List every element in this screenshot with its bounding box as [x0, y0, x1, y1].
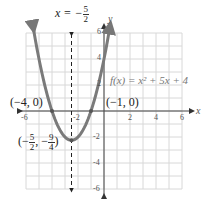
- y-tick-label: 2: [97, 80, 101, 88]
- y-tick-label: 6: [97, 28, 101, 36]
- y-tick-label: -2: [93, 133, 100, 141]
- x-tick-label: 4: [154, 114, 158, 122]
- point-label-vertex: (−52, −94): [18, 133, 59, 152]
- function-label: f(x) = x² + 5x + 4: [110, 75, 188, 86]
- x-tick-label: -2: [73, 114, 80, 122]
- x-tick-label: -6: [21, 114, 28, 122]
- x-axis-label: x: [196, 106, 200, 116]
- point-label-root-right: (−1, 0): [106, 96, 139, 108]
- y-tick-label: -4: [93, 159, 100, 167]
- y-axis-label: y: [108, 14, 112, 24]
- y-tick-label: 4: [97, 54, 101, 62]
- x-tick-label: 2: [128, 114, 132, 122]
- point-label-root-left: (−4, 0): [10, 96, 43, 108]
- x-tick-label: 6: [180, 114, 184, 122]
- axis-of-symmetry-label: x = −52: [55, 5, 89, 24]
- y-tick-label: -6: [93, 185, 100, 193]
